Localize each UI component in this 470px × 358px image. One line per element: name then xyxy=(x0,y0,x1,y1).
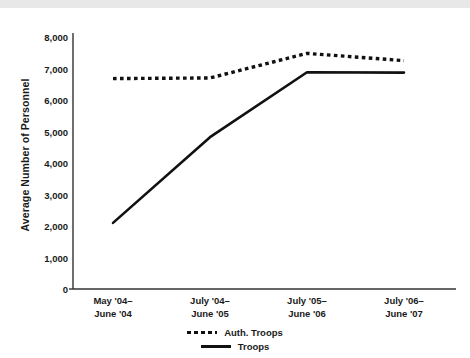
legend-entry: Auth. Troops xyxy=(187,326,283,338)
x-tick-label-line: June '06 xyxy=(252,308,362,321)
legend-label: Troops xyxy=(238,341,270,352)
legend-entry: Troops xyxy=(201,340,270,352)
legend-label: Auth. Troops xyxy=(224,327,283,338)
x-tick-label-line: June '04 xyxy=(58,308,168,321)
x-tick-label-line: July '06– xyxy=(349,295,459,308)
x-tick-label-line: May '04– xyxy=(58,295,168,308)
legend-swatch-solid xyxy=(201,341,231,351)
x-tick-label-line: July '05– xyxy=(252,295,362,308)
x-tick-label-line: June '07 xyxy=(349,308,459,321)
chart-legend: Auth. TroopsTroops xyxy=(0,326,470,352)
x-tick-label: May '04–June '04 xyxy=(58,295,168,320)
chart-figure: Average Number of Personnel 01,0002,0003… xyxy=(0,0,470,358)
x-tick-label: July '05–June '06 xyxy=(252,295,362,320)
x-tick-label-line: June '05 xyxy=(155,308,265,321)
legend-swatch-dashed xyxy=(187,327,217,337)
x-tick-label-line: July '04– xyxy=(155,295,265,308)
x-tick-label: July '06–June '07 xyxy=(349,295,459,320)
x-tick-label: July '04–June '05 xyxy=(155,295,265,320)
x-axis-tick-labels: May '04–June '04July '04–June '05July '0… xyxy=(0,0,470,358)
